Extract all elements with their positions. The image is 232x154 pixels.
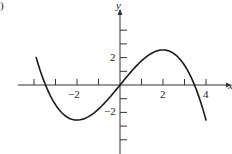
x-axis [18,83,231,88]
x-axis-label: x [228,80,232,91]
function-graph [0,0,232,154]
y-tick-label-2: 2 [110,52,116,63]
y-axis [118,9,123,154]
y-axis-label: y [116,0,121,11]
y-tick-label-neg2: −2 [104,106,116,117]
x-tick-label-4: 4 [203,89,209,100]
x-tick-label-neg2: −2 [68,89,80,100]
x-tick-label-2: 2 [160,89,166,100]
